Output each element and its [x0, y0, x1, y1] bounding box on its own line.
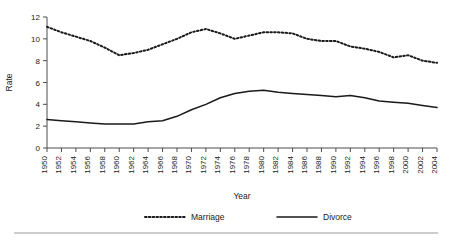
x-axis-tick-label: 2002 [416, 155, 425, 173]
y-axis-tick-label: 8 [36, 57, 41, 66]
x-axis-tick-label: 1960 [112, 155, 121, 173]
y-axis-tick-label: 6 [36, 79, 41, 88]
y-axis-tick-label: 4 [36, 100, 41, 109]
y-axis-tick-label: 12 [31, 13, 40, 22]
y-axis-tick-label: 2 [36, 122, 41, 131]
series-line-marriage [47, 27, 437, 63]
x-axis-tick-label: 1984 [286, 155, 295, 173]
y-axis-title: Rate [4, 73, 14, 91]
x-axis-tick-label: 2000 [401, 155, 410, 173]
x-axis-tick-label: 1970 [184, 155, 193, 173]
x-axis-tick-label: 1996 [372, 155, 381, 173]
x-axis-tick-label: 2004 [430, 155, 439, 173]
y-axis-tick-label: 10 [31, 35, 40, 44]
x-axis-tick-label: 1994 [358, 155, 367, 173]
chart-figure: 0246810121950195219541956195819601962196… [0, 0, 452, 243]
x-axis-tick-label: 1986 [300, 155, 309, 173]
x-axis-tick-label: 1956 [83, 155, 92, 173]
x-axis-tick-label: 1966 [156, 155, 165, 173]
x-axis-tick-label: 1998 [387, 155, 396, 173]
x-axis-tick-label: 1978 [242, 155, 251, 173]
x-axis-tick-label: 1958 [98, 155, 107, 173]
x-axis-tick-label: 1980 [257, 155, 266, 173]
x-axis-tick-label: 1972 [199, 155, 208, 173]
x-axis-tick-label: 1992 [343, 155, 352, 173]
legend-label-divorce: Divorce [323, 212, 352, 222]
x-axis-title: Year [233, 191, 250, 201]
x-axis-tick-label: 1976 [228, 155, 237, 173]
x-axis-tick-label: 1982 [271, 155, 280, 173]
marriage-divorce-rate-line-chart: 0246810121950195219541956195819601962196… [0, 0, 452, 243]
x-axis-tick-label: 1952 [54, 155, 63, 173]
x-axis-tick-label: 1950 [40, 155, 49, 173]
x-axis-tick-label: 1968 [170, 155, 179, 173]
x-axis-tick-label: 1990 [329, 155, 338, 173]
x-axis-tick-label: 1974 [213, 155, 222, 173]
x-axis-tick-label: 1988 [314, 155, 323, 173]
legend-label-marriage: Marriage [191, 212, 225, 222]
x-axis-tick-label: 1954 [69, 155, 78, 173]
x-axis-tick-label: 1962 [127, 155, 136, 173]
series-line-divorce [47, 90, 437, 124]
x-axis-tick-label: 1964 [141, 155, 150, 173]
y-axis-tick-label: 0 [36, 144, 41, 153]
